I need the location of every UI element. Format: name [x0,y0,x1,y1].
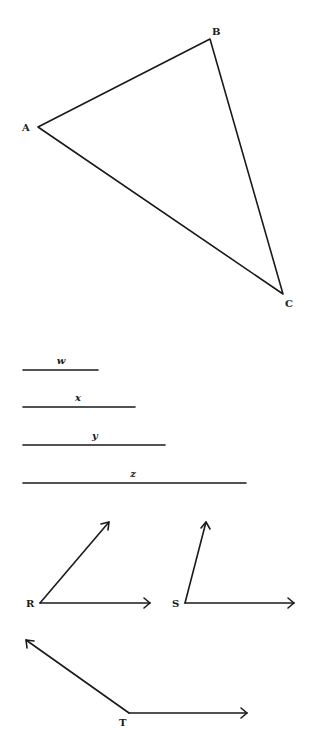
triangle-abc: A B C [21,26,293,309]
angle-s-ray-upper [185,522,206,603]
triangle-outline [38,39,283,294]
segment-x: x [23,392,135,407]
segment-y: y [23,430,165,445]
angle-t-ray-upper-left [26,640,129,713]
segment-x-label: x [74,392,82,403]
angle-t-label: T [119,717,127,728]
vertex-label-c: C [285,298,293,309]
segment-z-label: z [129,468,136,479]
angle-t: T [26,640,247,728]
angle-r-ray-diagonal [40,522,109,603]
segment-y-label: y [91,430,99,441]
angle-r-label: R [26,598,35,609]
segment-z: z [23,468,246,483]
segment-w: w [23,355,98,370]
geometry-figure: A B C w x y z R S T [0,0,316,734]
vertex-label-a: A [21,122,30,133]
segment-w-label: w [57,355,66,366]
vertex-label-b: B [212,26,220,37]
angle-s-label: S [172,598,179,609]
angle-s: S [172,522,294,609]
angle-r: R [26,522,150,609]
